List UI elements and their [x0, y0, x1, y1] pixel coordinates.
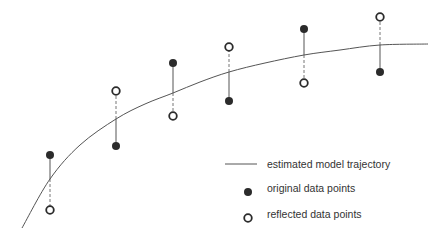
original-data-point	[112, 142, 120, 150]
reflected-data-point	[169, 112, 177, 120]
original-data-point	[46, 151, 54, 159]
legend-item-trajectory: estimated model trajectory	[225, 158, 391, 170]
filled-circle-icon	[244, 188, 252, 196]
original-data-point	[169, 59, 177, 67]
legend-label-trajectory: estimated model trajectory	[267, 158, 391, 170]
hollow-circle-icon	[244, 214, 252, 222]
legend-label-reflected: reflected data points	[267, 208, 362, 220]
reflection-diagram: estimated model trajectory original data…	[0, 0, 443, 240]
estimated-model-trajectory-curve	[22, 44, 428, 228]
reflected-data-point	[300, 79, 308, 87]
legend-item-reflected: reflected data points	[244, 208, 361, 222]
reflected-data-point	[46, 206, 54, 214]
original-data-point	[300, 25, 308, 33]
legend-label-original: original data points	[267, 182, 355, 194]
legend-item-original: original data points	[244, 182, 355, 196]
reflected-data-point	[376, 13, 384, 21]
reflected-data-point	[112, 87, 120, 95]
reflected-data-point	[225, 43, 233, 51]
legend: estimated model trajectory original data…	[225, 158, 391, 222]
original-data-point	[376, 68, 384, 76]
original-data-point	[225, 97, 233, 105]
